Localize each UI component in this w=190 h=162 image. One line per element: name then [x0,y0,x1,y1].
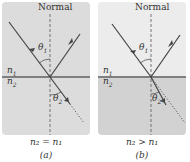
panel-a: Normal θ1 n1 n2 θ2 [2,2,90,135]
theta1-label-a: θ1 [38,42,47,54]
theta2-label-a: θ2 [53,93,62,105]
panel-b: Normal θ1 n1 n2 θ2 [98,2,186,135]
caption-a: (a) [2,150,90,160]
relation-label-b: n₂ > n₁ [98,137,186,147]
theta1-label-b: θ1 [139,42,148,54]
theta2-label-b: θ2 [152,93,161,105]
n2-label-a: n2 [7,76,17,88]
n2-label-b: n2 [103,76,113,88]
caption-b: (b) [98,150,186,160]
normal-label-a: Normal [38,2,72,12]
normal-label-b: Normal [135,2,169,12]
relation-label-a: n₂ = n₁ [2,137,90,147]
